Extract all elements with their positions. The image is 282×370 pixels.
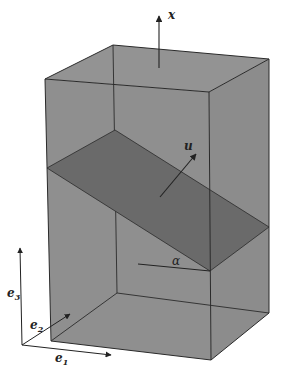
x-label: x	[167, 8, 176, 22]
e1-label: e1	[55, 351, 68, 367]
box-plane-diagram: α x u e3 e2 e1	[0, 0, 282, 370]
e3-label: e3	[7, 286, 21, 302]
e2-label: e2	[30, 318, 44, 334]
u-label: u	[184, 139, 193, 153]
alpha-label: α	[172, 254, 180, 268]
e3-arrow	[20, 248, 22, 345]
